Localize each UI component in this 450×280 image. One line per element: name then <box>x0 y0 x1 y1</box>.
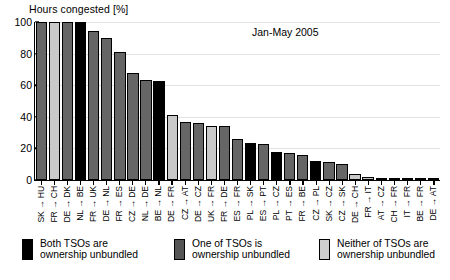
x-label-slot: ES → FR <box>230 186 243 232</box>
bar <box>258 144 269 180</box>
plot-area: 020406080100 <box>34 22 440 181</box>
x-tick-mark <box>296 181 309 185</box>
bar-item <box>35 22 48 180</box>
legend-swatch-both <box>22 239 33 260</box>
bar <box>402 178 413 180</box>
bar-item <box>283 22 296 180</box>
x-label-slot: DE → FR <box>165 186 178 232</box>
bar-item <box>126 22 139 180</box>
x-label-slot: CH → FR <box>388 186 401 232</box>
x-label-slot: DE → NL <box>99 186 112 232</box>
bar-item <box>375 22 388 180</box>
legend-item-both: Both TSOs areownership unbundled <box>22 238 174 261</box>
bar-series <box>35 22 440 180</box>
x-tick-label: ES → FR <box>233 186 242 222</box>
x-label-slot: IT → FR <box>401 186 414 232</box>
legend-label-line2: ownership unbundled <box>192 249 290 260</box>
y-tick-label: 40 <box>20 112 32 123</box>
legend-label-line2: ownership unbundled <box>337 249 435 260</box>
x-tick-mark <box>244 181 257 185</box>
x-label-slot: AT → CZ <box>374 186 387 232</box>
x-tick-label: ES → PT <box>259 186 268 221</box>
x-tick-mark <box>309 181 322 185</box>
x-tick-mark <box>401 181 414 185</box>
x-tick-mark <box>322 181 335 185</box>
x-tick-label: PL → SK <box>246 186 255 220</box>
x-tick-mark <box>139 181 152 185</box>
x-label-slot: PL → CZ <box>270 186 283 232</box>
x-label-slot: DE → DK <box>60 186 73 232</box>
x-tick-label: CZ → AT <box>180 186 189 220</box>
bar-item <box>153 22 166 180</box>
x-label-slot: ES → PT <box>257 186 270 232</box>
legend-label-line1: Both TSOs are <box>40 238 138 249</box>
bar-item <box>296 22 309 180</box>
bar <box>167 115 178 180</box>
bar-item <box>231 22 244 180</box>
x-tick-mark <box>335 181 348 185</box>
x-tick-label: CZ → PL <box>311 186 320 221</box>
bar-item <box>349 22 362 180</box>
x-label-slot: NL → DE <box>139 186 152 232</box>
x-label-slot: DE → CZ <box>191 186 204 232</box>
x-tick-mark <box>99 181 112 185</box>
bar-item <box>113 22 126 180</box>
bar-item <box>244 22 257 180</box>
x-label-slot: FR → BE <box>296 186 309 232</box>
bar <box>323 162 334 180</box>
bar <box>362 177 373 180</box>
bar <box>49 22 60 180</box>
bar <box>101 38 112 180</box>
y-tick-label: 100 <box>14 17 32 28</box>
bar <box>245 143 256 180</box>
x-label-slot: PL → SK <box>244 186 257 232</box>
bar-item <box>309 22 322 180</box>
x-label-slot: CZ → PL <box>309 186 322 232</box>
x-label-slot: FR → CH <box>47 186 60 232</box>
x-label-slot: FR → UK <box>86 186 99 232</box>
x-label-slot: FR → DE <box>217 186 230 232</box>
x-tick-label: FR → UK <box>89 186 98 222</box>
x-tick-mark <box>348 181 361 185</box>
bar <box>297 155 308 180</box>
bar <box>428 178 439 180</box>
x-label-slot: PT → ES <box>283 186 296 232</box>
bar-item <box>270 22 283 180</box>
bar <box>75 22 86 180</box>
x-tick-mark <box>414 181 427 185</box>
bar <box>376 178 387 180</box>
legend-label-line1: One of TSOs is <box>192 238 290 249</box>
x-tick-label: FR → DE <box>220 186 229 222</box>
bar <box>88 31 99 180</box>
x-tick-label: SK → CZ <box>324 186 333 222</box>
x-label-slot: FR → ES <box>113 186 126 232</box>
x-tick-label: CH → FR <box>390 186 399 223</box>
y-tick-label: 20 <box>20 143 32 154</box>
x-tick-mark <box>270 181 283 185</box>
bar <box>389 178 400 180</box>
x-tick-mark <box>283 181 296 185</box>
x-tick-marks <box>34 181 440 185</box>
x-tick-label: FR → BE <box>298 186 307 222</box>
bar <box>219 126 230 180</box>
bar <box>153 81 164 180</box>
x-tick-label: CZ → SK <box>337 186 346 222</box>
bar-item <box>257 22 270 180</box>
x-label-slot: CZ → SK <box>335 186 348 232</box>
bar-item <box>74 22 87 180</box>
x-label-slot: CZ → DE <box>126 186 139 232</box>
bar-item <box>401 22 414 180</box>
x-tick-label: BE → FR <box>416 186 425 222</box>
x-label-slot: NL → BE <box>73 186 86 232</box>
y-tick-label: 0 <box>26 175 32 186</box>
legend-item-one: One of TSOs isownership unbundled <box>174 238 319 261</box>
x-tick-label: FR → IT <box>364 186 373 218</box>
x-tick-mark <box>191 181 204 185</box>
legend-label-line1: Neither of TSOs are <box>337 238 435 249</box>
bar-item <box>87 22 100 180</box>
x-label-slot: UK → FR <box>204 186 217 232</box>
bar <box>127 73 138 180</box>
x-tick-label: DE → CZ <box>193 186 202 222</box>
bar <box>271 152 282 180</box>
bar <box>114 52 125 180</box>
